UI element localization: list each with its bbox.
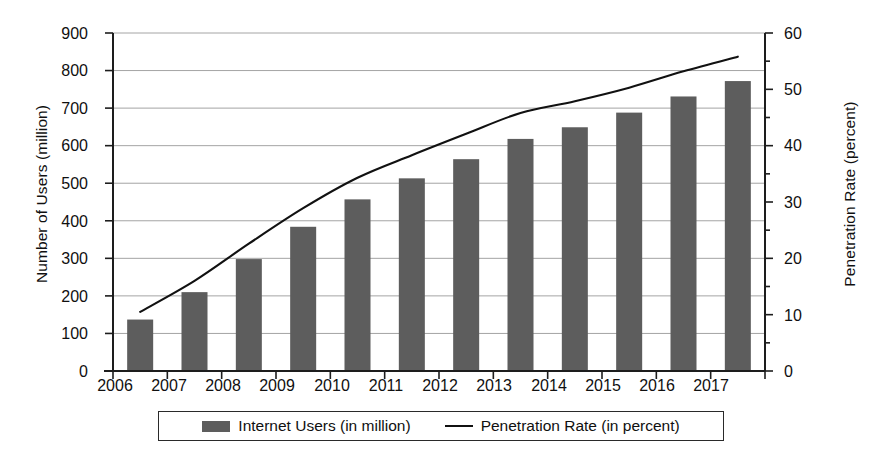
bar-2008 xyxy=(236,259,262,371)
bar-2009 xyxy=(290,227,316,371)
legend-label-penetration-rate: Penetration Rate (in percent) xyxy=(481,417,680,435)
bar-2015 xyxy=(616,113,642,371)
penetration-rate-line xyxy=(140,57,738,312)
x-axis-ticks xyxy=(113,371,765,379)
legend-line-icon xyxy=(445,425,473,427)
chart-figure: Number of Users (million) Penetration Ra… xyxy=(0,0,876,466)
bar-series xyxy=(127,81,751,371)
bar-2013 xyxy=(508,139,534,371)
bar-2017 xyxy=(725,81,751,371)
bar-2012 xyxy=(453,159,479,371)
bar-2011 xyxy=(399,178,425,371)
bar-2016 xyxy=(671,96,697,371)
legend-label-internet-users: Internet Users (in million) xyxy=(238,417,410,435)
legend-item-internet-users: Internet Users (in million) xyxy=(202,417,410,435)
bar-2014 xyxy=(562,127,588,371)
bar-2007 xyxy=(182,292,208,371)
bar-2006 xyxy=(127,320,153,371)
chart-legend: Internet Users (in million) Penetration … xyxy=(158,411,724,441)
legend-swatch-icon xyxy=(202,421,230,432)
gridlines xyxy=(113,33,765,333)
legend-item-penetration-rate: Penetration Rate (in percent) xyxy=(445,417,680,435)
plot-area xyxy=(0,0,876,466)
bar-2010 xyxy=(345,199,371,371)
y-axis-right-ticks xyxy=(765,33,773,371)
line-series xyxy=(140,57,738,312)
y-axis-left-ticks xyxy=(105,33,113,371)
